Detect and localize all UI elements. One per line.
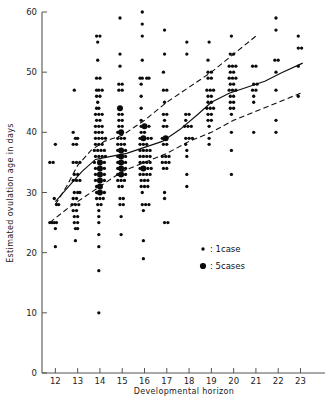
data-point (297, 46, 300, 49)
data-point (124, 155, 127, 158)
data-point (76, 173, 79, 176)
data-point (140, 165, 146, 171)
data-point (118, 153, 124, 159)
x-axis-group: 121314151617181920212223 (42, 368, 325, 386)
data-point (229, 71, 232, 74)
data-point (143, 131, 146, 134)
data-point (78, 161, 81, 164)
data-point (231, 89, 234, 92)
x-tick-label-18: 18 (184, 376, 195, 386)
data-point (148, 161, 151, 164)
data-point (94, 143, 97, 146)
data-point (138, 149, 141, 152)
data-point (121, 185, 124, 188)
data-point (274, 89, 277, 92)
data-point (141, 77, 144, 80)
data-point (73, 221, 76, 224)
data-point (53, 197, 56, 200)
data-point (145, 161, 148, 164)
data-point (140, 107, 143, 110)
data-point (72, 209, 75, 212)
data-point (97, 171, 103, 177)
data-point (117, 185, 120, 188)
data-point (161, 155, 164, 158)
data-point (140, 131, 143, 134)
data-point (73, 173, 76, 176)
data-point (187, 113, 190, 116)
data-point (234, 77, 237, 80)
data-point (165, 125, 168, 128)
data-point (72, 131, 75, 134)
data-point (230, 113, 233, 116)
data-point (94, 125, 97, 128)
data-point (297, 65, 300, 68)
data-point (210, 77, 213, 80)
x-tick-label-22: 22 (273, 376, 284, 386)
data-point (54, 143, 57, 146)
data-point (206, 95, 209, 98)
y-tick-label-0: 0 (32, 368, 37, 378)
data-point (124, 149, 127, 152)
data-point (205, 107, 208, 110)
data-point (98, 95, 101, 98)
data-point (209, 107, 212, 110)
data-point (167, 155, 170, 158)
data-point (206, 101, 209, 104)
upper-confidence-curve (55, 36, 256, 204)
data-point (117, 105, 123, 111)
data-point (146, 167, 149, 170)
data-point (118, 65, 121, 68)
y-tick-label-40: 40 (26, 127, 37, 137)
data-point (162, 71, 165, 74)
data-point (162, 143, 165, 146)
data-point (229, 101, 232, 104)
data-point (274, 16, 277, 19)
data-point (76, 137, 79, 140)
data-point (165, 89, 168, 92)
data-point (146, 137, 149, 140)
data-point (73, 215, 76, 218)
data-point (166, 221, 169, 224)
data-point (251, 89, 254, 92)
data-point (121, 125, 124, 128)
data-point (95, 197, 98, 200)
data-point (147, 125, 150, 128)
data-point (142, 149, 145, 152)
data-point (97, 165, 103, 171)
data-point (210, 113, 213, 116)
data-point (185, 149, 188, 152)
data-point (97, 183, 103, 189)
data-point (251, 65, 254, 68)
data-point (148, 155, 151, 158)
data-point (232, 83, 235, 86)
data-point (163, 135, 169, 141)
data-point (121, 113, 124, 116)
data-point (145, 149, 148, 152)
data-point (124, 161, 127, 164)
data-point (230, 173, 233, 176)
data-point (72, 143, 75, 146)
data-point (165, 167, 168, 170)
data-point (146, 179, 149, 182)
data-point (142, 173, 145, 176)
data-point (207, 137, 210, 140)
data-point (117, 125, 120, 128)
data-point (123, 137, 126, 140)
legend: : 1case : 5cases (200, 244, 246, 271)
data-point (228, 89, 231, 92)
data-point (300, 46, 303, 49)
data-point (75, 161, 78, 164)
data-point (55, 221, 58, 224)
data-point (94, 155, 97, 158)
data-point (75, 179, 78, 182)
data-point (252, 101, 255, 104)
data-point (121, 119, 124, 122)
data-point (187, 137, 190, 140)
data-point (104, 137, 107, 140)
data-point (142, 257, 145, 260)
data-point (206, 77, 209, 80)
data-point (207, 125, 210, 128)
data-point (185, 52, 188, 55)
data-point (229, 83, 232, 86)
data-points-layer (48, 10, 303, 314)
